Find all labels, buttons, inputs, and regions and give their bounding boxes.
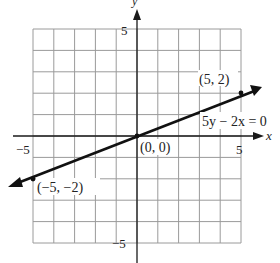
point-origin-label: (0, 0) — [140, 140, 171, 156]
x-tick-neg: −5 — [16, 142, 30, 157]
y-axis-label: y — [131, 0, 138, 8]
point-pos — [239, 91, 244, 96]
y-axis-arrow-icon — [133, 9, 141, 20]
plot-line-arrow-right-icon — [250, 85, 262, 96]
point-pos-label: (5, 2) — [199, 72, 230, 88]
x-axis-label: x — [265, 128, 272, 143]
y-tick-pos: 5 — [121, 23, 128, 38]
x-axis-arrow-icon — [253, 132, 264, 140]
equation-text: 5y − 2x = 0 — [202, 114, 267, 129]
point-neg-label: (−5, −2) — [37, 180, 83, 196]
point-neg — [31, 177, 36, 182]
point-origin — [135, 134, 140, 139]
equation-label: 5y − 2x = 0 — [202, 114, 267, 129]
plot-line-arrow-left-icon — [8, 177, 23, 187]
y-tick-neg: −5 — [112, 236, 126, 251]
x-tick-pos: 5 — [236, 142, 243, 157]
coordinate-plane: y x 5 −5 −5 5 (5, 2) 5y − 2x = 0 (0, 0) … — [0, 0, 280, 263]
